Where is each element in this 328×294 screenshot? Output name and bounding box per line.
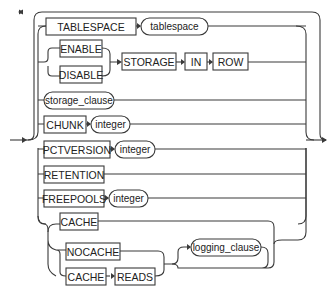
keyword-reads-label: READS	[117, 271, 153, 283]
loop-arrow-icon	[18, 10, 23, 15]
row-storage-clause: storage_clause	[38, 92, 306, 109]
keyword-in-label: IN	[191, 56, 202, 68]
keyword-cache-label: CACHE	[61, 216, 98, 228]
row-chunk: CHUNK integer	[38, 116, 306, 133]
entry-line	[10, 137, 28, 143]
nonterminal-freepools-integer-label: integer	[113, 193, 144, 204]
keyword-storage-label: STORAGE	[123, 56, 174, 68]
nonterminal-storage-clause-label: storage_clause	[45, 95, 113, 106]
row-tablespace: TABLESPACE tablespace	[38, 18, 306, 35]
keyword-row-label: ROW	[218, 56, 244, 68]
row-storage-in-row: ENABLE DISABLE STORAGE IN ROW	[38, 40, 306, 83]
row-pctversion: PCTVERSION integer	[38, 141, 306, 158]
right-rail	[296, 26, 314, 224]
keyword-pctversion-label: PCTVERSION	[43, 144, 111, 156]
keyword-cache-reads-cache-label: CACHE	[68, 271, 105, 283]
keyword-retention-label: RETENTION	[44, 169, 105, 181]
keyword-tablespace-label: TABLESPACE	[57, 21, 124, 33]
keyword-nocache-label: NOCACHE	[67, 246, 120, 258]
exit-line	[306, 137, 327, 143]
row-retention: RETENTION	[38, 166, 306, 183]
nonterminal-chunk-integer-label: integer	[95, 119, 126, 130]
nonterminal-pctversion-integer-label: integer	[120, 144, 151, 155]
keyword-freepools-label: FREEPOOLS	[42, 193, 106, 205]
row-freepools: FREEPOOLS integer	[38, 190, 306, 207]
keyword-enable-label: ENABLE	[60, 43, 101, 55]
syntax-diagram: TABLESPACE tablespace ENABLE DISABLE STO…	[0, 0, 328, 294]
keyword-disable-label: DISABLE	[59, 69, 103, 81]
nonterminal-logging-clause-label: logging_clause	[193, 242, 260, 253]
nonterminal-tablespace-label: tablespace	[150, 21, 199, 32]
keyword-chunk-label: CHUNK	[46, 119, 83, 131]
